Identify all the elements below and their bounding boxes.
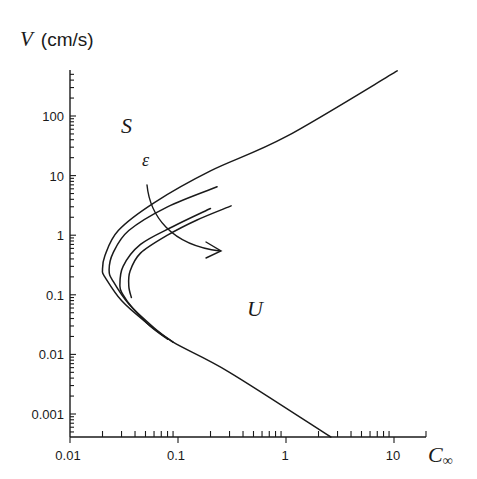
y-tick-label: 100: [42, 109, 64, 124]
y-tick-label: 0.001: [31, 407, 64, 422]
region-label-stable: S: [121, 113, 132, 138]
x-tick-labels: 0.01 0.1 1 10: [55, 448, 400, 463]
region-label-unstable: U: [247, 296, 265, 321]
curve-1: [102, 71, 397, 437]
y-tick-label: 0.1: [46, 288, 64, 303]
curve-family: [102, 71, 397, 437]
epsilon-label: ε: [142, 150, 150, 170]
y-tick-label: 1: [57, 228, 64, 243]
y-axis-label-text: V(cm/s): [20, 27, 94, 51]
stability-chart: ε V(cm/s) 100 10 1 0.1 0.01 0.001 0.01 0…: [0, 0, 477, 479]
curve-3: [120, 209, 211, 340]
y-tick-label: 0.01: [39, 347, 64, 362]
y-tick-label: 10: [50, 169, 64, 184]
x-axis-label: C∞: [428, 442, 453, 468]
x-tick-label: 0.01: [55, 448, 80, 463]
curve-2: [109, 187, 217, 342]
y-tick-labels: 100 10 1 0.1 0.01 0.001: [31, 109, 64, 422]
y-axis-ticks: [70, 74, 76, 432]
x-tick-label: 1: [281, 448, 288, 463]
x-tick-label: 0.1: [167, 448, 185, 463]
x-tick-label: 10: [386, 448, 400, 463]
